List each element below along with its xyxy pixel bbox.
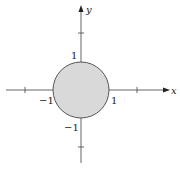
coordinate-diagram: y x 1 1 −1 −1 — [0, 0, 180, 169]
y-axis-label: y — [85, 4, 92, 15]
x-tick-label-neg1: −1 — [39, 95, 54, 106]
y-tick-label-pos1: 1 — [71, 50, 77, 61]
x-axis-arrow-icon — [163, 88, 170, 93]
x-axis-label: x — [171, 85, 177, 96]
y-axis-arrow-icon — [79, 5, 84, 12]
y-tick-label-neg1: −1 — [64, 122, 79, 133]
x-tick-label-pos1: 1 — [111, 95, 117, 106]
unit-disk-region — [53, 62, 109, 118]
